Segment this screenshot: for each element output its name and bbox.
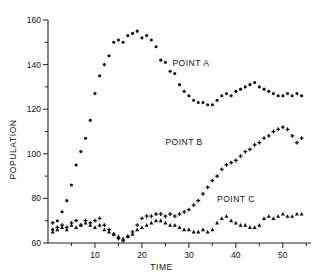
data-point bbox=[116, 234, 120, 238]
data-point bbox=[262, 216, 266, 220]
data-point bbox=[102, 223, 106, 227]
data-point bbox=[243, 150, 247, 154]
data-point bbox=[225, 163, 229, 167]
series-annotation-point-b: POINT B bbox=[165, 137, 202, 147]
data-point bbox=[300, 94, 303, 97]
x-axis-tick-label: 10 bbox=[90, 250, 100, 260]
data-point bbox=[211, 103, 214, 106]
data-point bbox=[178, 83, 181, 86]
data-point bbox=[163, 221, 167, 225]
data-point bbox=[154, 45, 157, 48]
data-point bbox=[201, 192, 205, 196]
data-point bbox=[201, 101, 204, 104]
data-point bbox=[88, 223, 92, 227]
data-point bbox=[229, 219, 233, 223]
data-point bbox=[121, 236, 125, 240]
data-point bbox=[140, 36, 143, 39]
data-point bbox=[145, 34, 148, 37]
data-point bbox=[140, 225, 144, 229]
data-point bbox=[192, 99, 195, 102]
data-point bbox=[69, 223, 73, 227]
data-point bbox=[272, 130, 276, 134]
data-point bbox=[201, 228, 205, 232]
data-point bbox=[60, 225, 64, 229]
data-point bbox=[112, 41, 115, 44]
data-point bbox=[55, 228, 59, 232]
data-point bbox=[136, 30, 139, 33]
data-point bbox=[187, 208, 191, 212]
data-point bbox=[290, 134, 294, 138]
data-point bbox=[244, 85, 247, 88]
data-point bbox=[117, 39, 120, 42]
series-point-c bbox=[51, 212, 304, 240]
data-point bbox=[51, 230, 55, 234]
data-point bbox=[262, 88, 265, 91]
data-point bbox=[103, 63, 106, 66]
data-point bbox=[187, 228, 191, 232]
data-point bbox=[74, 225, 78, 229]
data-point bbox=[286, 92, 289, 95]
y-axis-tick-label: 160 bbox=[27, 15, 41, 25]
data-point bbox=[243, 223, 247, 227]
data-point bbox=[135, 228, 139, 232]
data-point bbox=[169, 70, 172, 73]
series-annotation-point-a: POINT A bbox=[172, 58, 209, 68]
data-point bbox=[196, 230, 200, 234]
data-point bbox=[145, 214, 149, 218]
data-point bbox=[258, 85, 261, 88]
data-point bbox=[248, 83, 251, 86]
data-point bbox=[70, 183, 73, 186]
data-point bbox=[276, 214, 280, 218]
data-point bbox=[286, 127, 290, 131]
data-point bbox=[262, 136, 266, 140]
data-point bbox=[159, 219, 163, 223]
data-point bbox=[248, 147, 252, 151]
data-point bbox=[286, 214, 290, 218]
x-axis-tick-label: 30 bbox=[184, 250, 194, 260]
data-point bbox=[267, 214, 271, 218]
data-point bbox=[131, 32, 134, 35]
data-point bbox=[291, 94, 294, 97]
data-point bbox=[126, 34, 129, 37]
y-axis-tick-label: 120 bbox=[27, 104, 41, 114]
data-point bbox=[164, 214, 168, 218]
data-point bbox=[93, 92, 96, 95]
data-point bbox=[98, 223, 102, 227]
data-point bbox=[239, 223, 243, 227]
data-point bbox=[281, 125, 285, 129]
data-point bbox=[74, 219, 78, 223]
data-point bbox=[107, 230, 111, 234]
data-point bbox=[145, 223, 149, 227]
data-point bbox=[300, 212, 304, 216]
data-point bbox=[267, 90, 270, 93]
data-point bbox=[183, 90, 186, 93]
data-point bbox=[230, 94, 233, 97]
data-point bbox=[234, 90, 237, 93]
data-point bbox=[257, 223, 261, 227]
data-point bbox=[295, 92, 298, 95]
data-point bbox=[216, 99, 219, 102]
data-point bbox=[277, 94, 280, 97]
data-point bbox=[253, 81, 256, 84]
data-point bbox=[164, 61, 167, 64]
data-point bbox=[239, 154, 243, 158]
data-point bbox=[51, 221, 55, 225]
data-point bbox=[168, 212, 172, 216]
x-axis-tick-label: 20 bbox=[137, 250, 147, 260]
data-point bbox=[131, 232, 135, 236]
data-point bbox=[281, 212, 285, 216]
data-point bbox=[79, 150, 82, 153]
data-point bbox=[168, 223, 172, 227]
chart-canvas: 60801001201401601020304050TIMEPOPULATION… bbox=[0, 0, 319, 279]
data-point bbox=[300, 136, 304, 140]
x-axis-title: TIME bbox=[150, 262, 173, 272]
population-vs-time-scatter-chart: 60801001201401601020304050TIMEPOPULATION… bbox=[0, 0, 319, 279]
y-axis-tick-label: 80 bbox=[32, 193, 42, 203]
data-point bbox=[75, 163, 78, 166]
data-point bbox=[84, 221, 88, 225]
data-point bbox=[61, 210, 64, 213]
y-axis-tick-label: 100 bbox=[27, 149, 41, 159]
data-point bbox=[149, 214, 153, 218]
data-point bbox=[182, 210, 186, 214]
data-point bbox=[173, 214, 177, 218]
